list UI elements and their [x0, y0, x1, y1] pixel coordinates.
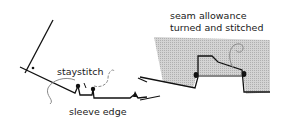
dot-marker [32, 67, 35, 70]
label-seam-allowance: seam allowance [170, 10, 246, 21]
label-turned-stitched: turned and stitched [170, 22, 263, 33]
right-illustration [140, 37, 270, 100]
stitch-knot [194, 72, 199, 78]
stitch-knot [91, 87, 95, 91]
stitch-knot [76, 84, 80, 88]
stitch-knot [242, 71, 247, 77]
shaded-seam-allowance [154, 37, 270, 94]
left-illustration [20, 20, 147, 104]
leader-line [84, 83, 86, 88]
notch-marker [133, 91, 138, 97]
garment-edge-line [25, 20, 53, 73]
label-staystitch: staystitch [57, 66, 103, 77]
label-sleeve-edge: sleeve edge [69, 106, 127, 117]
